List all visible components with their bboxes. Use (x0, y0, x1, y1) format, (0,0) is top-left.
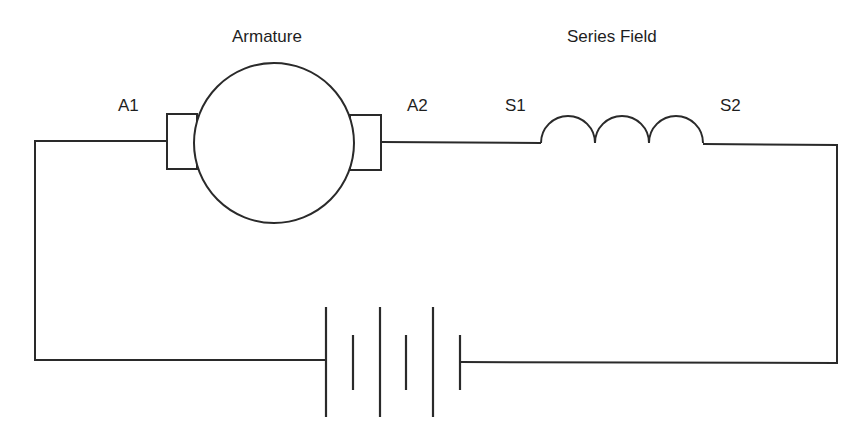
series-field-coil (541, 116, 703, 143)
terminal-a1-label: A1 (118, 96, 139, 116)
battery-symbol (326, 307, 460, 417)
armature-label: Armature (232, 27, 302, 47)
terminal-s1-label: S1 (505, 96, 526, 116)
wire-right (460, 144, 837, 363)
armature-circle (194, 63, 354, 223)
armature-symbol (167, 63, 381, 223)
wire-a2-s1 (381, 142, 541, 143)
circuit-diagram (0, 0, 863, 438)
terminal-a2-label: A2 (407, 96, 428, 116)
series-field-label: Series Field (567, 27, 657, 47)
brush-a1 (167, 114, 197, 169)
terminal-s2-label: S2 (720, 96, 741, 116)
